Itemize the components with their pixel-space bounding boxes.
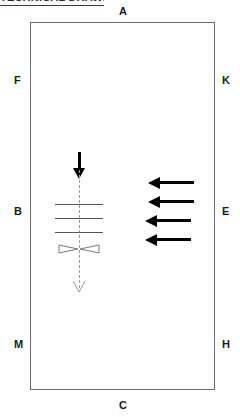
left-arrow-icon	[148, 196, 194, 208]
left-arrow-icon	[145, 215, 191, 227]
tick-line	[55, 218, 103, 219]
header-underline	[0, 5, 104, 6]
left-arrow-shaft	[155, 219, 191, 222]
header-title: TECHNICAL DRAWING	[0, 0, 104, 3]
edge-label-bottom: C	[119, 400, 127, 411]
left-arrow-shaft	[158, 200, 194, 203]
tick-line	[55, 204, 103, 205]
vertical-dashed-centerline	[79, 170, 80, 288]
edge-label-top: A	[119, 6, 127, 17]
edge-label-right-bottom: H	[222, 339, 230, 350]
edge-label-left-bottom: M	[14, 339, 23, 350]
left-arrow-shaft	[155, 238, 191, 241]
left-arrow-icon	[148, 177, 194, 189]
edge-label-right-middle: E	[222, 206, 229, 217]
edge-label-right-top: K	[222, 75, 230, 86]
edge-label-left-middle: B	[14, 206, 22, 217]
diagram-canvas: TECHNICAL DRAWING A C F B M K E H	[0, 0, 240, 417]
bowtie-icon	[58, 241, 100, 253]
tick-line	[55, 232, 103, 233]
left-arrow-icon	[145, 234, 191, 246]
edge-label-left-top: F	[14, 75, 21, 86]
hollow-arrowhead-icon	[71, 280, 87, 294]
left-arrow-shaft	[158, 181, 194, 184]
